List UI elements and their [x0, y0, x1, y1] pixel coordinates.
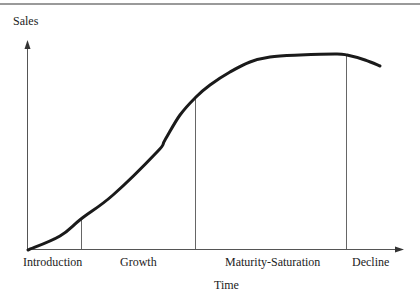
y-axis-arrow-icon — [25, 40, 31, 49]
x-axis-arrow-icon — [395, 247, 404, 253]
sales-curve — [28, 54, 380, 250]
x-axis-label: Time — [214, 278, 239, 293]
stage-label-growth: Growth — [120, 255, 157, 270]
product-life-cycle-diagram — [0, 0, 420, 293]
stage-label-decline: Decline — [352, 255, 389, 270]
y-axis-label: Sales — [13, 14, 38, 29]
stage-label-maturity: Maturity-Saturation — [225, 255, 320, 270]
stage-label-introduction: Introduction — [23, 255, 82, 270]
